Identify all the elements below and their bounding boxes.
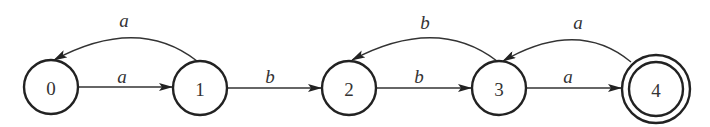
edge-label-1-to-0: a: [119, 10, 129, 31]
edge-label-3-to-2: b: [420, 12, 430, 33]
edge-1-to-0: [54, 38, 197, 61]
state-3-label: 3: [494, 79, 504, 100]
state-2-label: 2: [344, 79, 354, 100]
state-0-label: 0: [46, 78, 56, 99]
edge-label-2-to-3: b: [414, 66, 424, 87]
edge-label-4-to-3: a: [573, 12, 583, 33]
edge-label-3-to-4: a: [563, 66, 573, 87]
state-3: 3: [472, 61, 526, 115]
state-1: 1: [173, 61, 227, 115]
state-1-label: 1: [195, 79, 205, 100]
edge-4-to-3: [503, 40, 631, 62]
state-4-label: 4: [651, 80, 661, 101]
state-4-accepting: 4: [622, 55, 690, 123]
state-2: 2: [322, 61, 376, 115]
edge-label-0-to-1: a: [117, 66, 127, 87]
automaton-diagram: a a b b b a a 0 1 2 3 4: [0, 0, 710, 127]
state-0: 0: [24, 60, 78, 114]
edge-3-to-2: [352, 38, 497, 61]
edge-label-1-to-2: b: [265, 66, 275, 87]
